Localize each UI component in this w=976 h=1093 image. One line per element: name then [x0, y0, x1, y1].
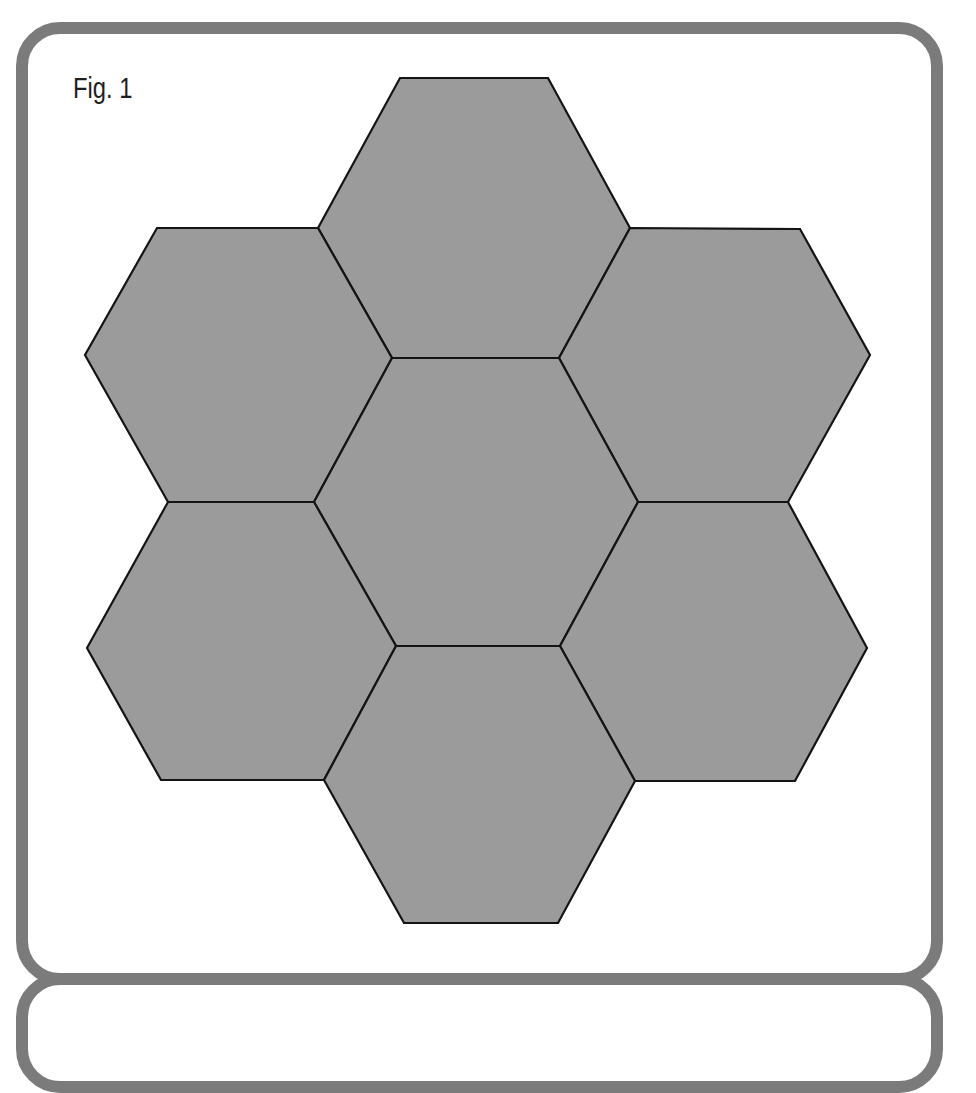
hexagon-cluster	[0, 0, 976, 996]
